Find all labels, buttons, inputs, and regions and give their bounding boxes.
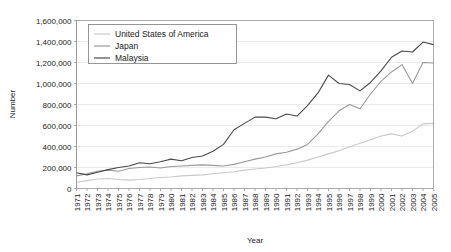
x-tick-label: 1988 (251, 193, 260, 211)
legend-label-3: Malaysia (115, 53, 149, 63)
x-axis-tick-labels: 1971197219731974197519761977197819791980… (73, 193, 439, 211)
x-tick-label: 1982 (188, 193, 197, 211)
series-line-japan (77, 63, 434, 176)
chart-legend: United States of AmericaJapanMalaysia (89, 25, 237, 64)
x-tick-label: 1986 (230, 193, 239, 211)
x-tick-label: 2000 (377, 193, 386, 211)
y-tick-label: 0 (67, 185, 72, 194)
legend-label-2: Japan (115, 41, 138, 51)
x-tick-label: 1973 (94, 193, 103, 211)
x-tick-label: 1996 (335, 193, 344, 211)
x-tick-label: 1971 (73, 193, 82, 211)
line-chart: 0200,000400,000600,000800,0001,000,0001,… (0, 0, 451, 252)
x-tick-label: 1993 (304, 193, 313, 211)
x-tick-label: 1987 (241, 193, 250, 211)
x-tick-label: 1989 (262, 193, 271, 211)
x-tick-label: 2002 (398, 193, 407, 211)
x-tick-label: 1990 (272, 193, 281, 211)
y-tick-label: 200,000 (43, 164, 72, 173)
x-tick-label: 1980 (167, 193, 176, 211)
x-tick-label: 1997 (346, 193, 355, 211)
x-tick-label: 1978 (146, 193, 155, 211)
x-tick-label: 1979 (157, 193, 166, 211)
x-tick-label: 1984 (209, 193, 218, 211)
x-tick-label: 1974 (104, 193, 113, 211)
x-tick-label: 2004 (419, 193, 428, 211)
x-tick-label: 1992 (293, 193, 302, 211)
legend-label-1: United States of America (115, 29, 209, 39)
x-tick-label: 1991 (283, 193, 292, 211)
x-tick-label: 1999 (367, 193, 376, 211)
x-tick-label: 1976 (125, 193, 134, 211)
x-tick-label: 1981 (178, 193, 187, 211)
x-tick-label: 1998 (356, 193, 365, 211)
x-tick-label: 2005 (430, 193, 439, 211)
x-tick-label: 1985 (220, 193, 229, 211)
y-tick-label: 800,000 (43, 101, 72, 110)
x-tick-label: 2003 (409, 193, 418, 211)
x-tick-label: 2001 (388, 193, 397, 211)
y-tick-label: 1,600,000 (36, 17, 72, 26)
y-tick-label: 1,400,000 (36, 38, 72, 47)
x-tick-label: 1994 (314, 193, 323, 211)
y-axis-title: Number (8, 89, 17, 118)
x-tick-label: 1983 (199, 193, 208, 211)
y-tick-label: 600,000 (43, 122, 72, 131)
chart-container: 0200,000400,000600,000800,0001,000,0001,… (0, 0, 451, 252)
x-tick-label: 1977 (136, 193, 145, 211)
y-tick-label: 1,200,000 (36, 59, 72, 68)
x-axis-title: Year (247, 236, 264, 245)
series-line-united-states-of-america (77, 123, 434, 182)
x-tick-label: 1975 (115, 193, 124, 211)
y-tick-label: 1,000,000 (36, 80, 72, 89)
y-tick-label: 400,000 (43, 143, 72, 152)
x-tick-label: 1995 (325, 193, 334, 211)
y-axis-tick-labels: 0200,000400,000600,000800,0001,000,0001,… (36, 17, 72, 194)
x-tick-label: 1972 (83, 193, 92, 211)
